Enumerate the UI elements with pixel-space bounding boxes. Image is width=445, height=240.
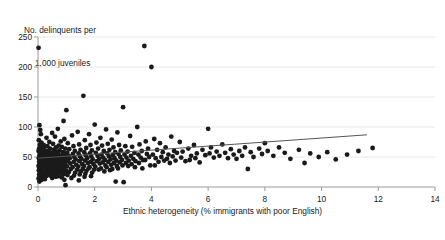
data-point [36, 45, 41, 50]
data-point [94, 140, 99, 145]
data-point [82, 164, 87, 169]
x-tick-label: 6 [198, 194, 218, 204]
data-point [77, 142, 82, 147]
data-point [175, 150, 180, 155]
data-point [356, 149, 361, 154]
data-point [240, 153, 245, 158]
data-point [61, 119, 66, 124]
x-tick-label: 14 [425, 194, 445, 204]
data-point [102, 169, 107, 174]
data-point [248, 150, 253, 155]
data-point [200, 147, 205, 152]
y-tick-label: 50 [6, 152, 32, 162]
data-point [82, 174, 87, 179]
data-point [282, 150, 287, 155]
x-tick-label: 8 [255, 194, 275, 204]
data-point [152, 163, 157, 168]
data-point [152, 137, 157, 142]
data-point [55, 126, 60, 131]
data-point [156, 159, 161, 164]
data-point [211, 155, 216, 160]
data-point [183, 159, 188, 164]
data-point [177, 140, 182, 145]
data-point [223, 150, 228, 155]
data-point [117, 143, 122, 148]
data-point [167, 161, 172, 166]
data-point [137, 142, 142, 147]
data-point [207, 151, 212, 156]
y-tick-label: 0 [6, 182, 32, 192]
data-point [96, 146, 101, 151]
data-point [76, 178, 81, 183]
data-point [234, 156, 239, 161]
data-point [169, 134, 174, 139]
x-tick-label: 10 [312, 194, 332, 204]
gridlines [38, 37, 435, 157]
data-points [36, 44, 375, 188]
data-point [70, 165, 75, 170]
data-point [179, 155, 184, 160]
data-point [38, 132, 43, 137]
data-point [194, 151, 199, 156]
data-point [38, 128, 43, 133]
data-point [110, 167, 115, 172]
x-tick-label: 0 [28, 194, 48, 204]
data-point [98, 135, 103, 140]
data-point [76, 164, 81, 169]
y-tick-label: 200 [6, 62, 32, 72]
data-point [77, 172, 82, 177]
data-point [62, 137, 67, 142]
data-point [149, 65, 154, 70]
data-point [160, 150, 165, 155]
data-point [137, 161, 142, 166]
data-point [115, 130, 120, 135]
data-point [345, 152, 350, 157]
data-point [109, 137, 114, 142]
data-point [72, 173, 77, 178]
data-point [173, 158, 178, 163]
data-point [206, 126, 211, 131]
data-point [203, 153, 208, 158]
data-point [105, 141, 110, 146]
data-point [88, 143, 93, 148]
data-point [92, 122, 97, 127]
y-tick-label: 150 [6, 92, 32, 102]
data-point [87, 132, 92, 137]
y-tick-label: 250 [6, 32, 32, 42]
data-point [143, 139, 148, 144]
data-point [62, 177, 67, 182]
data-point [123, 144, 128, 149]
data-point [121, 180, 126, 185]
data-point [325, 150, 330, 155]
data-point [81, 93, 86, 98]
data-point [37, 123, 42, 128]
data-point [75, 129, 80, 134]
data-point [44, 135, 49, 140]
data-point [82, 138, 87, 143]
data-point [271, 153, 276, 158]
data-point [133, 165, 138, 170]
data-point [302, 161, 307, 166]
data-point [158, 141, 163, 146]
data-point [63, 183, 68, 188]
data-point [316, 155, 321, 160]
data-point [197, 160, 202, 165]
data-point [237, 149, 242, 154]
data-point [265, 149, 270, 154]
data-point [104, 127, 109, 132]
data-point [180, 149, 185, 154]
data-point [100, 143, 105, 148]
x-axis-title: Ethnic heterogeneity (% immigrants with … [0, 206, 445, 216]
data-point [193, 156, 198, 161]
data-point [220, 142, 225, 147]
data-point [165, 156, 170, 161]
data-point [166, 152, 171, 157]
data-point [308, 151, 313, 156]
data-point [84, 146, 89, 151]
data-point [65, 141, 70, 146]
data-point [111, 145, 116, 150]
data-point [217, 153, 222, 158]
data-point [64, 108, 69, 113]
data-point [189, 153, 194, 158]
data-point [187, 158, 192, 163]
